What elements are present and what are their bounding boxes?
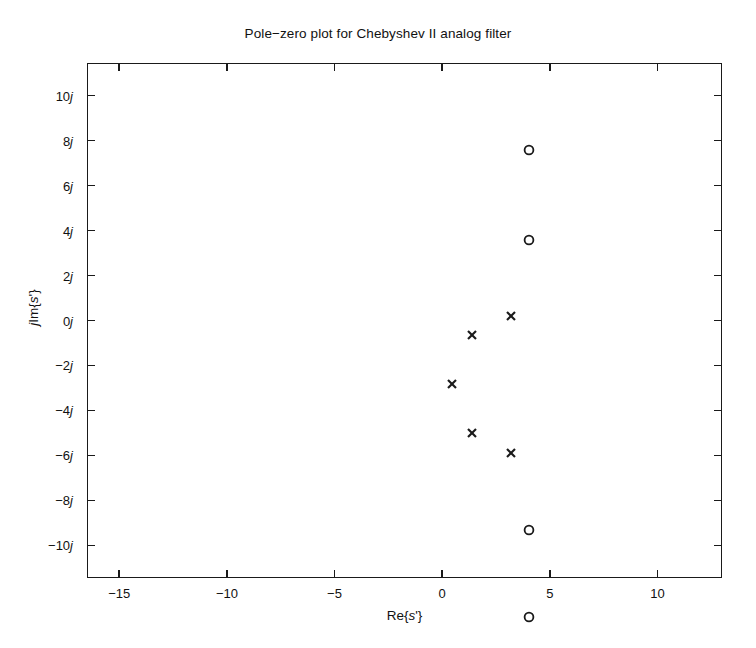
x-tick-label: −5 (327, 586, 342, 601)
y-tick-left (87, 365, 95, 367)
y-tick-left (87, 230, 95, 232)
y-tick-left (87, 455, 95, 457)
y-tick-label: −6j (0, 448, 73, 463)
y-tick-label: 6j (0, 178, 73, 193)
y-tick-label: 10j (0, 88, 73, 103)
y-tick-left (87, 275, 95, 277)
y-tick-right (714, 140, 722, 142)
x-axis-label-text: Re{s'} (387, 608, 423, 623)
y-tick-left (87, 185, 95, 187)
x-tick-label: 5 (546, 586, 553, 601)
x-tick-bottom (226, 570, 228, 578)
x-tick-top (549, 63, 551, 71)
y-tick-right (714, 185, 722, 187)
pole-marker (467, 330, 478, 341)
y-tick-left (87, 95, 95, 97)
y-tick-right (714, 500, 722, 502)
x-tick-bottom (549, 570, 551, 578)
y-tick-left (87, 140, 95, 142)
pole-marker (505, 448, 516, 459)
x-tick-top (334, 63, 336, 71)
pole-marker (446, 378, 457, 389)
y-tick-right (714, 320, 722, 322)
y-tick-right (714, 545, 722, 547)
plot-area (87, 63, 722, 578)
x-tick-label: 0 (439, 586, 446, 601)
chart-title: Pole−zero plot for Chebyshev II analog f… (0, 26, 756, 41)
x-tick-top (226, 63, 228, 71)
x-tick-bottom (118, 570, 120, 578)
y-axis-label: jIm{s'} (26, 248, 41, 368)
x-tick-label: 10 (650, 586, 664, 601)
zero-marker (523, 233, 536, 246)
x-tick-bottom (334, 570, 336, 578)
x-tick-top (657, 63, 659, 71)
y-axis-label-text: jIm{s'} (26, 289, 41, 325)
pole-zero-figure: Pole−zero plot for Chebyshev II analog f… (0, 0, 756, 648)
zero-marker (523, 143, 536, 156)
y-tick-right (714, 230, 722, 232)
y-tick-left (87, 545, 95, 547)
y-tick-label: −4j (0, 403, 73, 418)
x-tick-top (118, 63, 120, 71)
y-tick-right (714, 455, 722, 457)
y-tick-left (87, 500, 95, 502)
y-tick-right (714, 365, 722, 367)
pole-marker (505, 311, 516, 322)
y-tick-label: 4j (0, 223, 73, 238)
x-tick-top (441, 63, 443, 71)
pole-marker (467, 427, 478, 438)
y-tick-label: −8j (0, 493, 73, 508)
x-tick-label: −15 (108, 586, 130, 601)
y-tick-right (714, 95, 722, 97)
zero-marker (523, 523, 536, 536)
y-tick-right (714, 275, 722, 277)
x-axis-label: Re{s'} (87, 608, 722, 623)
y-tick-left (87, 410, 95, 412)
x-tick-bottom (441, 570, 443, 578)
y-tick-left (87, 320, 95, 322)
y-tick-right (714, 410, 722, 412)
x-tick-bottom (657, 570, 659, 578)
y-tick-label: 8j (0, 133, 73, 148)
y-tick-label: −10j (0, 538, 73, 553)
x-tick-label: −10 (216, 586, 238, 601)
